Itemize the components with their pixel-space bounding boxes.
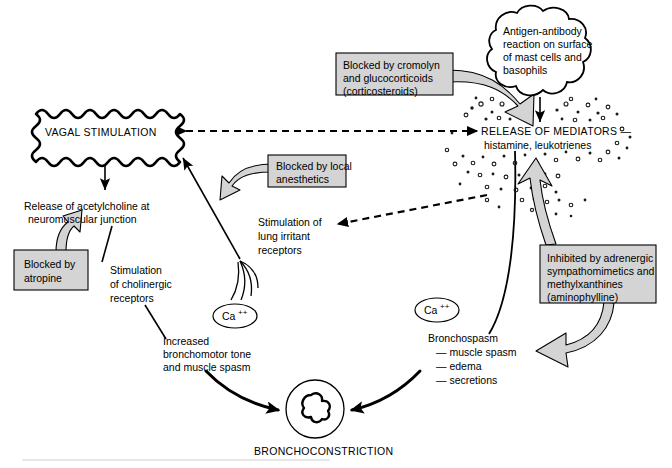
adrenergic-label-line1: Inhibited by adrenergic: [547, 252, 653, 264]
lung-irritant-label-line3: receptors: [258, 244, 302, 256]
connector-bronchospasm-to-bronchoconstriction: [352, 371, 420, 410]
bronchospasm-label-line4: — secretions: [436, 374, 497, 386]
bronchoconstriction-label: BRONCHOCONSTRICTION: [254, 445, 393, 457]
lung-irritant-label-line1: Stimulation of: [258, 216, 322, 228]
local-anesthetics-label-line2: anesthetics: [276, 173, 329, 185]
cromolyn-label-line1: Blocked by cromolyn: [343, 59, 440, 71]
connector-lung-irritant-to-vagal: [183, 158, 240, 259]
bronchomotor-label-line3: and muscle spasm: [163, 361, 251, 373]
cholinergic-label-line2: of cholinergic: [110, 278, 172, 290]
cholinergic-label-line3: receptors: [110, 292, 154, 304]
connector-mediators-to-bronchospasm: [489, 151, 515, 334]
local-anesthetics-arrow: [220, 164, 272, 200]
cromolyn-label-line2: and glucocorticoids: [343, 72, 433, 84]
bronchomotor-label-line2: bronchomotor tone: [163, 348, 251, 360]
adrenergic-label-line4: (aminophylline): [547, 291, 618, 303]
cholinergic-label-line1: Stimulation: [110, 264, 162, 276]
acetylcholine-label-line2: neuromuscular junction: [28, 213, 137, 225]
connector-bronchomotor-to-bronchoconstriction: [206, 371, 278, 410]
antigen-label-line3: of mast cells and: [503, 51, 582, 63]
mediators-label-line1: RELEASE OF MEDIATORS —: [481, 125, 632, 137]
bronchomotor-label-line1: Increased: [163, 335, 209, 347]
vagal-stimulation-box: [32, 110, 184, 166]
bronchoconstriction-diagram: VAGAL STIMULATION Release of acetylcholi…: [0, 0, 672, 468]
adrenergic-label-line3: methylxanthines: [547, 278, 623, 290]
antigen-label-line4: basophils: [503, 64, 547, 76]
calcium-right-charge: ++: [440, 302, 450, 311]
bronchospasm-label-line3: — edema: [436, 360, 482, 372]
calcium-left-label: Ca: [222, 310, 236, 322]
connector-mediators-to-lung-irritant: [338, 195, 487, 224]
adrenergic-label-line2: sympathomimetics and: [547, 265, 655, 277]
diagram-canvas: VAGAL STIMULATION Release of acetylcholi…: [0, 0, 672, 468]
atropine-label-line1: Blocked by: [24, 258, 76, 270]
vagal-stimulation-label: VAGAL STIMULATION: [45, 126, 157, 138]
atropine-label-line2: atropine: [24, 272, 62, 284]
atropine-callout-box[interactable]: [14, 250, 88, 290]
adrenergic-arrow-down: [536, 302, 614, 367]
antigen-label-line2: reaction on surface: [503, 38, 592, 50]
connector-cholinergic-to-bronchomotor: [145, 305, 166, 339]
calcium-right-label: Ca: [424, 304, 438, 316]
bronchospasm-label-line1: Bronchospasm: [428, 332, 498, 344]
lung-irritant-label-line2: lung irritant: [258, 230, 310, 242]
nerve-ending-fibers: [231, 261, 258, 300]
calcium-left-charge: ++: [238, 308, 248, 317]
mediators-label-line2: histamine, leukotrienes: [484, 139, 591, 151]
local-anesthetics-label-line1: Blocked by local: [276, 160, 352, 172]
antigen-label-line1: Antigen-antibody: [503, 25, 583, 37]
acetylcholine-label-line1: Release of acetylcholine at: [24, 200, 150, 212]
cromolyn-label-line3: (corticosteroids): [343, 85, 418, 97]
connector-acetylcholine-to-cholinergic: [102, 226, 112, 262]
bronchospasm-label-line2: — muscle spasm: [436, 346, 517, 358]
